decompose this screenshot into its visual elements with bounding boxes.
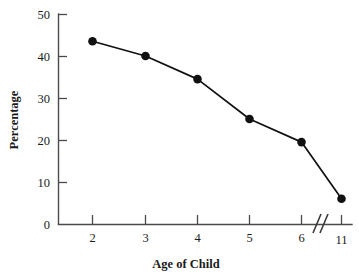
data-point-4 <box>193 75 202 84</box>
y-tick-label-0: 0 <box>44 218 50 232</box>
y-tick-label-50: 50 <box>38 8 51 22</box>
y-tick-label-40: 40 <box>38 50 51 64</box>
data-line-percentage <box>93 41 342 199</box>
data-point-6 <box>297 138 306 147</box>
x-tick-label-11: 11 <box>335 233 347 247</box>
x-tick-label-5: 5 <box>246 231 252 245</box>
axis-break-slash-2 <box>320 214 328 233</box>
y-tick-labels: 50 40 30 20 10 0 <box>38 8 51 232</box>
chart-canvas: 50 40 30 20 10 0 2 3 4 5 6 11 <box>0 0 359 279</box>
x-tick-marks <box>93 215 342 224</box>
axis-break-slash-1 <box>313 214 321 233</box>
data-point-2 <box>88 37 97 46</box>
y-tick-label-10: 10 <box>38 176 51 190</box>
x-tick-labels: 2 3 4 5 6 11 <box>89 231 347 247</box>
y-axis-title: Percentage <box>7 90 21 149</box>
x-axis-break-icon <box>313 214 328 233</box>
data-point-5 <box>245 115 254 124</box>
y-tick-label-30: 30 <box>38 92 51 106</box>
data-markers-group <box>88 37 346 203</box>
x-tick-label-2: 2 <box>89 231 95 245</box>
data-point-11 <box>337 195 346 204</box>
line-chart: 50 40 30 20 10 0 2 3 4 5 6 11 <box>0 0 359 279</box>
x-tick-label-6: 6 <box>298 231 304 245</box>
x-axis-title: Age of Child <box>152 257 219 271</box>
data-point-3 <box>141 52 150 61</box>
x-tick-label-4: 4 <box>194 231 201 245</box>
y-tick-label-20: 20 <box>38 134 51 148</box>
axes-group <box>59 14 353 225</box>
y-tick-marks <box>59 15 67 183</box>
x-tick-label-3: 3 <box>142 231 148 245</box>
